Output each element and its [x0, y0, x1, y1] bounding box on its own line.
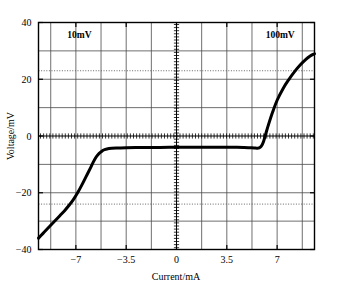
y-tick-label: −40 [16, 244, 32, 255]
x-tick-label: 7 [275, 254, 280, 265]
iv-curve-chart: −7−3.503.57 −40−2002040 10mV100mV Curren… [0, 0, 337, 287]
annotation-label: 100mV [266, 30, 295, 40]
y-tick-label: 0 [27, 131, 32, 142]
y-axis-title: Voltage/mV [5, 111, 16, 160]
x-axis-title: Current/mA [152, 271, 201, 282]
y-tick-label: 40 [22, 17, 32, 28]
y-tick-label: −20 [16, 187, 32, 198]
annotation-label: 10mV [67, 30, 91, 40]
x-tick-label: 0 [174, 254, 179, 265]
x-tick-label: −7 [71, 254, 82, 265]
chart-figure: −7−3.503.57 −40−2002040 10mV100mV Curren… [0, 0, 337, 287]
x-tick-label: −3.5 [117, 254, 135, 265]
x-tick-label: 3.5 [221, 254, 234, 265]
y-tick-label: 20 [22, 74, 32, 85]
